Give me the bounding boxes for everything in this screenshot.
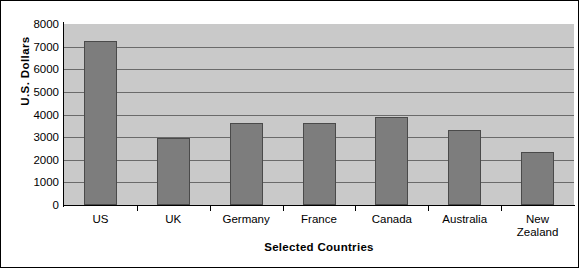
x-axis-category-label-line: Germany [210,213,283,226]
x-axis-category-label: NewZealand [501,213,574,239]
x-axis-category-label-line: UK [137,213,210,226]
x-axis-tick-mark [137,206,138,211]
x-axis-tick-mark [428,206,429,211]
y-axis-tick-label: 5000 [19,87,59,97]
plot-area [64,24,574,205]
bar [375,117,408,205]
x-axis-category-label-line: New [501,213,574,226]
gridline [64,69,574,70]
x-axis-category-label: Canada [355,213,428,226]
x-axis-category-label-line: Australia [428,213,501,226]
x-axis-category-label-line: US [64,213,137,226]
y-axis-tick-label: 7000 [19,42,59,52]
gridline [64,115,574,116]
bar [303,123,336,205]
gridline [64,92,574,93]
x-axis-tick-mark [283,206,284,211]
y-axis-tick-label: 0 [19,200,59,210]
y-axis-tick-label: 6000 [19,64,59,74]
bar [84,41,117,205]
y-axis-tick-label: 1000 [19,177,59,187]
y-axis-tick-label: 2000 [19,155,59,165]
x-axis-category-label: France [283,213,356,226]
y-axis-tick-label: 8000 [19,19,59,29]
y-axis-tick-label: 3000 [19,132,59,142]
gridline [64,47,574,48]
x-axis-category-label: UK [137,213,210,226]
x-axis-tick-mark [210,206,211,211]
x-axis-tick-mark [501,206,502,211]
x-axis-category-label-line: Zealand [501,226,574,239]
x-axis-line [63,205,575,206]
x-axis-category-label: Germany [210,213,283,226]
x-axis-category-label-line: Canada [355,213,428,226]
x-axis-category-label: US [64,213,137,226]
y-axis-tick-labels: 010002000300040005000600070008000 [19,24,59,205]
x-axis-title: Selected Countries [64,241,574,253]
x-axis-category-label-line: France [283,213,356,226]
bar [157,138,190,205]
bar [230,123,263,205]
bar [448,130,481,205]
bar-chart-figure: U.S. Dollars 010002000300040005000600070… [0,0,579,268]
x-axis-tick-mark [355,206,356,211]
bar [521,152,554,205]
x-axis-category-label: Australia [428,213,501,226]
y-axis-tick-label: 4000 [19,110,59,120]
